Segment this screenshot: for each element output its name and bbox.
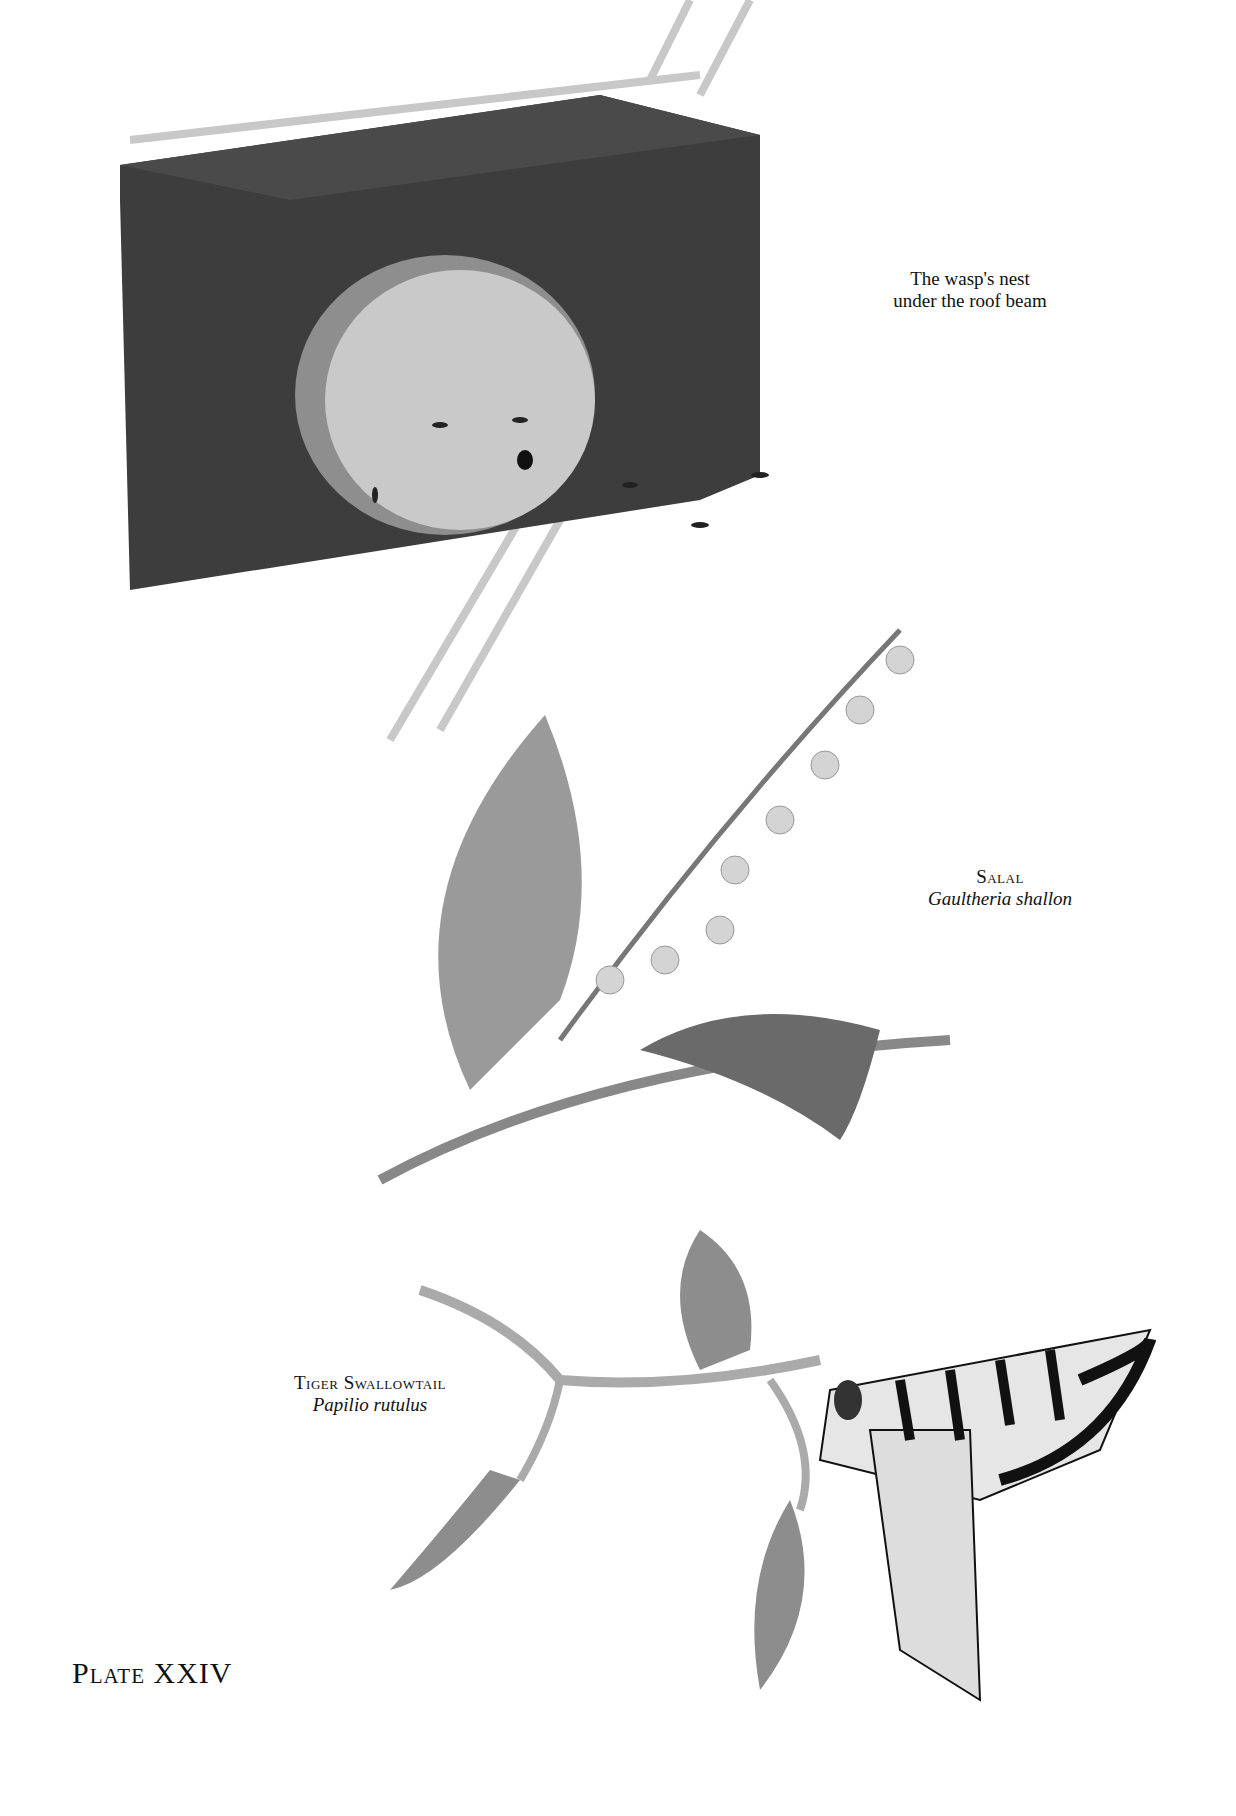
salal-caption: Salal Gaultheria shallon	[860, 866, 1140, 910]
wasp-nest	[295, 255, 595, 535]
swallowtail-branch	[390, 1230, 820, 1690]
wasp-nest-caption-line2: under the roof beam	[820, 290, 1120, 312]
swallowtail-caption: Tiger Swallowtail Papilio rutulus	[230, 1372, 510, 1416]
wasp-nest-caption: The wasp's nest under the roof beam	[820, 268, 1120, 312]
swallowtail-common-name: Tiger Swallowtail	[230, 1372, 510, 1394]
salal-common-name: Salal	[860, 866, 1140, 888]
salal-latin-name: Gaultheria shallon	[860, 888, 1140, 910]
butterfly	[820, 1330, 1150, 1700]
swallowtail-latin-name: Papilio rutulus	[230, 1394, 510, 1416]
plate-label: Plate XXIV	[72, 1656, 233, 1690]
wasp-nest-caption-line1: The wasp's nest	[820, 268, 1120, 290]
